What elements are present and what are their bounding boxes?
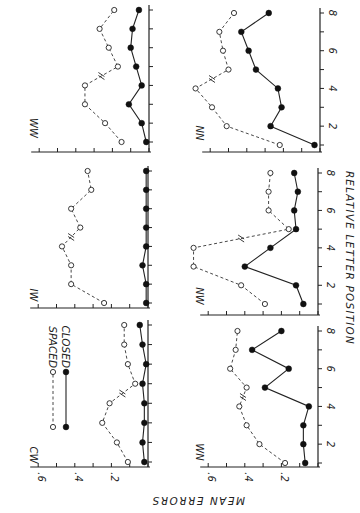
closed-data-point [279, 328, 285, 334]
position-tick-label: 4 [325, 403, 336, 409]
closed-data-point [139, 83, 145, 89]
rotated-figure: .2.4.6CWIWWW.2.4.62468WN2468NW2468NN SPA… [0, 0, 360, 513]
legend-closed-marker [63, 369, 69, 375]
spaced-data-point [266, 208, 271, 213]
position-tick-label: 8 [325, 170, 336, 176]
closed-data-point [143, 206, 149, 212]
panel-title: WW [28, 118, 39, 139]
panel-ww: WW [28, 5, 153, 152]
value-tick-label: .4 [243, 472, 254, 482]
spaced-data-point [217, 29, 222, 34]
closed-data-point [300, 301, 306, 307]
closed-data-point [306, 404, 312, 410]
position-tick-label: 4 [327, 85, 338, 91]
chart-canvas: .2.4.6CWIWWW.2.4.62468WN2468NW2468NN SPA… [0, 0, 360, 513]
legend-spaced-marker [50, 424, 55, 429]
position-tick-label: 6 [325, 366, 336, 372]
spaced-data-point [97, 26, 102, 31]
spaced-data-point [235, 328, 240, 333]
spaced-data-point [191, 264, 196, 269]
closed-data-point [143, 187, 149, 193]
closed-data-point [140, 262, 146, 268]
closed-data-point [300, 422, 306, 428]
closed-data-point [140, 381, 146, 387]
spaced-data-point [101, 300, 106, 305]
spaced-data-point [69, 282, 74, 287]
closed-data-point [286, 366, 292, 372]
closed-data-point [133, 64, 139, 70]
spaced-data-point [231, 10, 236, 15]
spaced-data-point [125, 362, 130, 367]
spaced-data-point [277, 142, 282, 147]
closed-data-point [275, 86, 281, 92]
closed-data-point [141, 420, 147, 426]
spaced-data-point [257, 442, 262, 447]
closed-data-point [268, 245, 274, 251]
closed-data-point [279, 104, 285, 110]
closed-data-point [246, 48, 252, 54]
position-tick-label: 8 [325, 328, 336, 334]
spaced-data-point [209, 105, 214, 110]
closed-data-point [291, 170, 297, 176]
position-tick-label: 4 [325, 245, 336, 251]
closed-data-point [143, 300, 149, 306]
spaced-data-point [115, 64, 120, 69]
spaced-data-point [244, 385, 249, 390]
spaced-data-point [133, 381, 138, 386]
closed-data-point [249, 347, 255, 353]
spaced-data-point [114, 440, 119, 445]
closed-series-line [241, 13, 314, 145]
spaced-data-point [191, 245, 196, 250]
spaced-data-point [82, 102, 87, 107]
closed-data-point [137, 322, 143, 328]
spaced-data-point [59, 244, 64, 249]
spaced-data-point [107, 401, 112, 406]
position-tick-label: 2 [325, 441, 336, 447]
spaced-data-point [122, 322, 127, 327]
spaced-data-point [237, 404, 242, 409]
closed-data-point [143, 281, 149, 287]
spaced-data-point [78, 225, 83, 230]
closed-data-point [143, 139, 149, 145]
value-tick-label: .2 [279, 472, 290, 482]
closed-data-point [136, 7, 142, 13]
legend-closed-label: CLOSED [60, 325, 72, 368]
closed-data-point [130, 26, 136, 32]
spaced-data-point [193, 86, 198, 91]
axis-labels: RELATIVE LETTER POSITIONMEAN ERRORS [151, 171, 356, 507]
panel-title: NN [194, 126, 205, 141]
spaced-data-point [224, 124, 229, 129]
spaced-data-point [89, 187, 94, 192]
panel-iw: IW [28, 166, 152, 308]
closed-data-point [143, 361, 149, 367]
spaced-data-point [233, 347, 238, 352]
closed-data-point [268, 123, 274, 129]
closed-data-point [126, 101, 132, 107]
spaced-data-point [85, 168, 90, 173]
spaced-data-point [266, 189, 271, 194]
legend-closed-marker [63, 424, 69, 430]
closed-data-point [140, 342, 146, 348]
y-axis-label: MEAN ERRORS [151, 495, 245, 507]
spaced-data-point [282, 460, 287, 465]
spaced-data-point [122, 342, 127, 347]
panel-title: NW [194, 287, 205, 305]
position-tick-label: 2 [325, 282, 336, 288]
position-tick-label: 8 [327, 10, 338, 16]
spaced-data-point [112, 7, 117, 12]
spaced-data-point [286, 227, 291, 232]
x-axis-label: RELATIVE LETTER POSITION [344, 171, 356, 345]
spaced-data-point [244, 423, 249, 428]
position-tick-label: 2 [327, 123, 338, 129]
spaced-data-point [69, 206, 74, 211]
spaced-data-point [106, 45, 111, 50]
closed-data-point [262, 385, 268, 391]
spaced-data-point [220, 48, 225, 53]
closed-data-point [300, 441, 306, 447]
closed-data-point [291, 208, 297, 214]
closed-data-point [143, 225, 149, 231]
spaced-data-point [69, 263, 74, 268]
panel-cw: .2.4.6CW [28, 320, 152, 482]
spaced-data-point [268, 170, 273, 175]
closed-data-point [143, 244, 149, 250]
